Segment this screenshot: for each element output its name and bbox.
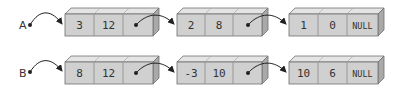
node-data: 10 <box>212 67 225 80</box>
node-data: 1 <box>300 19 307 32</box>
pointer-arrow <box>30 61 62 72</box>
list-node: 10 6 NULL <box>289 56 384 84</box>
node-data: 10 <box>297 67 310 80</box>
linked-list-diagram: A 3 12 2 8 <box>0 0 397 93</box>
list-node: 3 12 <box>65 8 159 36</box>
node-data: 12 <box>102 67 115 80</box>
list-node: 8 12 <box>65 56 159 84</box>
list-label-b: B <box>19 67 27 80</box>
node-data: 8 <box>216 19 223 32</box>
node-data: 3 <box>76 19 83 32</box>
pointer-arrow <box>30 13 62 25</box>
null-pointer: NULL <box>352 69 372 79</box>
list-node: 1 0 NULL <box>289 8 384 36</box>
list-label-a: A <box>19 19 27 32</box>
node-data: 2 <box>188 19 195 32</box>
list-node: 2 8 <box>177 8 268 36</box>
null-pointer: NULL <box>352 21 372 31</box>
list-node: -3 10 <box>177 56 268 84</box>
node-data: 0 <box>329 19 336 32</box>
node-data: 12 <box>102 19 115 32</box>
list-b: B 8 12 -3 10 <box>19 56 384 84</box>
node-data: 8 <box>76 67 83 80</box>
list-a: A 3 12 2 8 <box>19 8 384 36</box>
node-data: -3 <box>184 67 197 80</box>
node-data: 6 <box>329 67 336 80</box>
